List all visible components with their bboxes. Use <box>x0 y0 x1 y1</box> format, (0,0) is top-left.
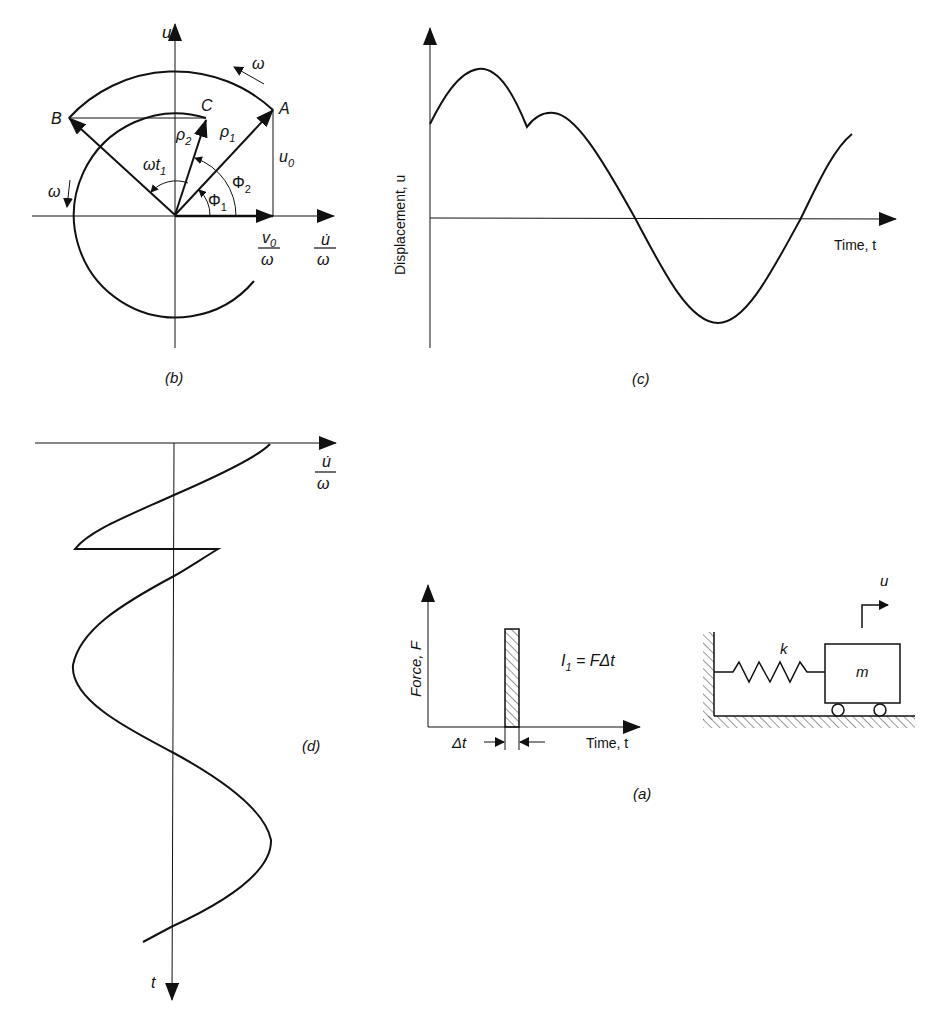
b-phi1-label: Φ1 <box>208 192 227 213</box>
panel-b-phase-plane: u ω ω A B C ρ1 ρ2 u0 Φ2 Φ1 ωt1 v0 ω u̇ ω… <box>32 23 336 386</box>
b-rho1-label: ρ1 <box>219 123 235 144</box>
a-mass-label: m <box>856 663 869 680</box>
b-u0-label: u0 <box>279 148 295 169</box>
panel-a-impulse-and-system: Force, F Time, t Δt I1 = FΔt (a) k m u <box>407 572 915 802</box>
b-rho2-label: ρ2 <box>175 126 191 147</box>
a-displacement-arrow <box>862 605 888 628</box>
a-force-axis-label: Force, F <box>407 640 424 697</box>
c-displacement-curve <box>430 69 852 323</box>
b-omega-left-label: ω <box>48 183 60 200</box>
b-v0-denominator: ω <box>261 251 273 268</box>
b-udot-numerator: u̇ <box>321 231 330 248</box>
a-caption: (a) <box>633 785 651 802</box>
b-v0-numerator: v0 <box>262 229 277 249</box>
a-floor-hatch <box>703 716 915 728</box>
panel-d-velocity-plot: u̇ ω t (d) <box>35 443 336 1000</box>
a-dt-label: Δt <box>451 734 467 751</box>
c-x-axis-label: Time, t <box>834 237 876 253</box>
c-caption: (c) <box>632 370 650 387</box>
b-phi2-label: Φ2 <box>232 174 251 195</box>
a-displacement-label: u <box>880 572 889 589</box>
b-u-axis-label: u <box>162 23 172 42</box>
a-spring-label: k <box>780 640 789 657</box>
b-omega-arrow-left <box>67 180 70 207</box>
b-caption: (b) <box>165 369 183 386</box>
figure-canvas: u ω ω A B C ρ1 ρ2 u0 Φ2 Φ1 ωt1 v0 ω u̇ ω… <box>0 0 943 1014</box>
a-wheel-right <box>874 704 886 716</box>
b-omega-t1-label: ωt1 <box>143 156 166 177</box>
a-wheel-left <box>832 704 844 716</box>
d-velocity-curve <box>73 444 271 942</box>
c-x-axis <box>430 218 896 219</box>
a-impulse-pulse <box>505 629 519 727</box>
d-t-axis-label: t <box>151 974 156 991</box>
panel-c-displacement-plot: Displacement, u Time, t (c) <box>392 28 896 387</box>
a-spring <box>714 662 825 682</box>
b-omega-top-label: ω <box>252 55 264 72</box>
b-udot-denominator: ω <box>317 251 329 268</box>
d-t-axis <box>172 443 174 1000</box>
a-time-axis-label: Time, t <box>586 735 628 751</box>
a-mass-spring-system: k m u <box>703 572 915 728</box>
d-udot-numerator: u̇ <box>322 453 331 470</box>
a-impulse-equation: I1 = FΔt <box>561 652 615 673</box>
a-wall-hatch <box>703 632 714 720</box>
d-udot-denominator: ω <box>317 475 329 492</box>
b-point-B: B <box>51 110 62 127</box>
b-point-C: C <box>201 97 213 114</box>
c-y-axis-label: Displacement, u <box>392 175 408 275</box>
b-outer-arc <box>69 71 273 118</box>
b-point-A: A <box>278 100 290 117</box>
d-caption: (d) <box>302 737 320 754</box>
